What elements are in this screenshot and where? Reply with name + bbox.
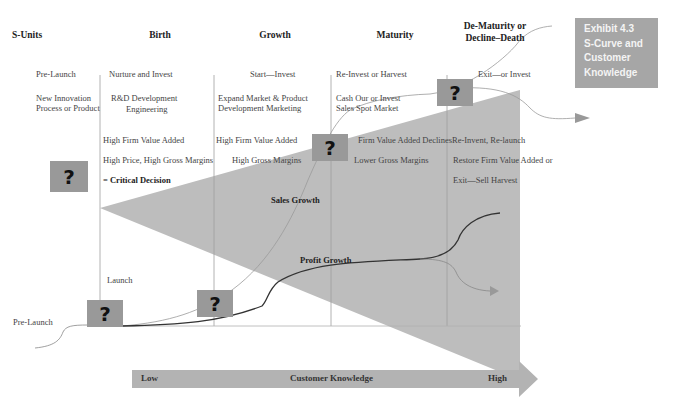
growth-margins: High Gross Margins xyxy=(232,155,301,166)
question-mark-icon: ? xyxy=(209,292,221,316)
profit-growth-label: Profit Growth xyxy=(300,255,351,266)
maturity-strategy: Re-Invest or Harvest xyxy=(336,69,407,80)
decline-strategy: Exit—or Invest xyxy=(478,69,531,80)
sales-wedge xyxy=(100,90,520,380)
birth-focus-line2: Engineering xyxy=(126,104,168,115)
axis-title: Customer Knowledge xyxy=(290,373,373,383)
header-s-units: S-Units xyxy=(12,29,72,41)
header-birth: Birth xyxy=(130,29,190,41)
decline-line3: Exit—Sell Harvest xyxy=(453,175,517,186)
growth-focus-line2: Development Marketing xyxy=(218,103,301,114)
header-de-maturity: De-Maturity or Decline–Death xyxy=(455,20,535,44)
question-mark-icon: ? xyxy=(99,302,111,326)
question-mark-icon: ? xyxy=(449,81,461,105)
exhibit-title-box: Exhibit 4.3 S-Curve and Customer Knowled… xyxy=(575,18,658,88)
header-growth: Growth xyxy=(245,29,305,41)
decline-line1: Re-Invent, Re-launch xyxy=(452,135,525,146)
axis-high-label: High xyxy=(488,373,507,383)
header-maturity: Maturity xyxy=(365,29,425,41)
decline-line2: Restore Firm Value Added or xyxy=(453,155,552,166)
exhibit-number: Exhibit 4.3 xyxy=(584,22,658,37)
growth-strategy: Start—Invest xyxy=(250,69,295,80)
birth-critical-decision: = Critical Decision xyxy=(103,175,171,186)
s-units-pre-launch: Pre-Launch xyxy=(36,69,76,80)
decision-box-maturity: ? xyxy=(312,134,348,161)
exhibit-title-line: Customer xyxy=(584,51,658,66)
exhibit-title-line: S-Curve and xyxy=(584,37,658,52)
growth-value: High Firm Value Added xyxy=(216,135,297,146)
header-de-maturity-line1: De-Maturity or xyxy=(455,20,535,32)
birth-strategy: Nurture and Invest xyxy=(109,69,173,80)
sales-growth-label: Sales Growth xyxy=(271,195,320,206)
maturity-margins: Lower Gross Margins xyxy=(354,155,428,166)
maturity-focus-line2: Sales Spot Market xyxy=(336,103,398,114)
question-mark-icon: ? xyxy=(324,136,336,160)
axis-low-label: Low xyxy=(141,373,158,383)
birth-value: High Firm Value Added xyxy=(103,135,184,146)
sales-decline-arrowhead xyxy=(575,113,590,123)
birth-launch: Launch xyxy=(107,275,133,286)
question-mark-icon: ? xyxy=(63,165,75,189)
pre-launch-curve xyxy=(35,325,88,348)
header-de-maturity-line2: Decline–Death xyxy=(455,32,535,44)
decision-box-growth: ? xyxy=(197,290,233,317)
s-units-innovation-line2: Process or Product xyxy=(36,103,100,114)
decision-box-s-units: ? xyxy=(50,161,88,192)
pre-launch-curve-label: Pre-Launch xyxy=(13,317,53,328)
exhibit-title-line: Knowledge xyxy=(584,66,658,81)
decision-box-decline: ? xyxy=(437,79,473,106)
birth-margins: High Price, High Gross Margins xyxy=(103,155,213,166)
decision-box-launch: ? xyxy=(87,300,123,327)
maturity-value: Firm Value Added Declines xyxy=(358,135,452,146)
birth-focus-line1: R&D Development xyxy=(111,93,177,104)
